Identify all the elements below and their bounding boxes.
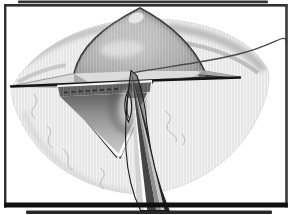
scan-artifact-bottom <box>26 211 272 214</box>
dome-texture <box>74 8 205 79</box>
frame-bottom <box>4 203 288 208</box>
frame-right <box>285 4 288 208</box>
frame-left <box>4 4 6 208</box>
cornea-dome <box>74 8 205 79</box>
scan-artifact-top <box>18 0 268 3</box>
illustration-canvas <box>0 0 290 215</box>
frame-top <box>4 4 288 7</box>
surgical-illustration-figure <box>0 0 290 215</box>
